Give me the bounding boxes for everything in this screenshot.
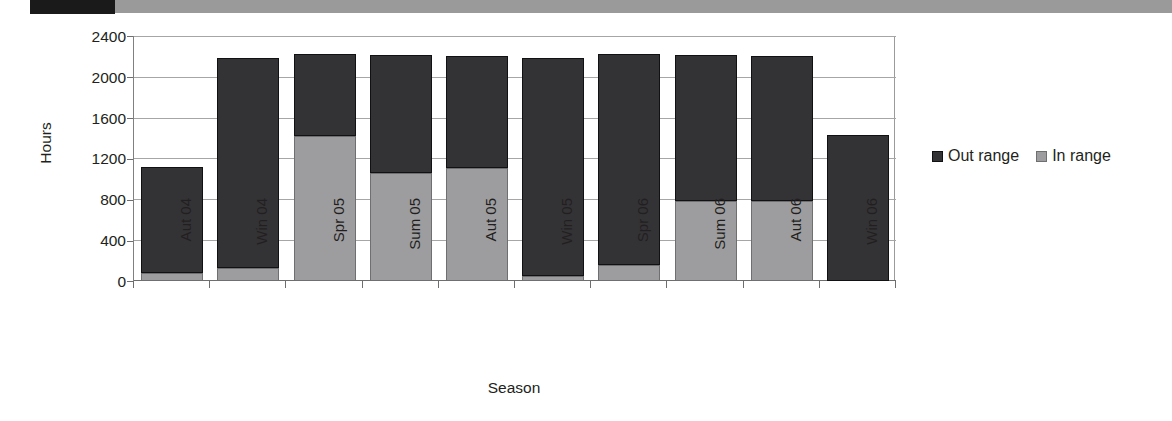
x-category-label: Sum 05 [406, 198, 423, 290]
x-category-label: Aut 06 [787, 198, 804, 290]
x-tick-mark [362, 281, 363, 288]
y-tick-label: 2000 [50, 69, 126, 87]
y-tick-label: 800 [50, 191, 126, 209]
x-tick-mark [590, 281, 591, 288]
x-category-label: Aut 05 [482, 198, 499, 290]
x-tick-mark [514, 281, 515, 288]
legend-item-in-range[interactable]: In range [1036, 147, 1111, 165]
legend-item-out-range[interactable]: Out range [932, 147, 1019, 165]
x-category-label: Win 04 [253, 198, 270, 290]
chart-legend: Out range In range [932, 147, 1111, 165]
bar-segment-out-range[interactable] [294, 54, 356, 136]
x-category-label: Spr 06 [634, 198, 651, 290]
x-axis-title: Season [133, 379, 895, 397]
y-tick-label: 400 [50, 232, 126, 250]
x-tick-mark [895, 281, 896, 288]
dark-square-icon [932, 151, 943, 162]
x-category-label: Win 06 [863, 198, 880, 290]
bar-segment-out-range[interactable] [751, 56, 813, 201]
x-category-label: Aut 04 [177, 198, 194, 290]
scan-header-bar [0, 0, 1172, 14]
stacked-bar-chart: Hours 2400 2000 1600 1200 800 400 0 Aut … [0, 14, 1172, 421]
x-category-label: Win 05 [558, 198, 575, 290]
scan-header-black-segment [30, 0, 115, 14]
bar-segment-out-range[interactable] [446, 56, 508, 167]
x-tick-mark [743, 281, 744, 288]
bar-segment-out-range[interactable] [675, 55, 737, 201]
x-tick-mark [666, 281, 667, 288]
y-tick-label: 1200 [50, 150, 126, 168]
legend-label: Out range [948, 147, 1019, 165]
gray-square-icon [1036, 151, 1047, 162]
y-tick-label: 0 [50, 273, 126, 291]
x-category-label: Spr 05 [330, 198, 347, 290]
x-tick-mark [133, 281, 134, 288]
y-tick-label: 2400 [50, 28, 126, 46]
x-tick-mark [819, 281, 820, 288]
plot-area [133, 36, 895, 281]
y-axis-tick-labels: 2400 2000 1600 1200 800 400 0 [50, 14, 126, 421]
x-tick-mark [438, 281, 439, 288]
y-tick-label: 1600 [50, 110, 126, 128]
scan-header-gray-segment [115, 0, 1172, 13]
x-category-label: Sum 06 [711, 198, 728, 290]
x-tick-mark [285, 281, 286, 288]
x-tick-mark [209, 281, 210, 288]
bar-segment-out-range[interactable] [370, 55, 432, 172]
legend-label: In range [1052, 147, 1111, 165]
